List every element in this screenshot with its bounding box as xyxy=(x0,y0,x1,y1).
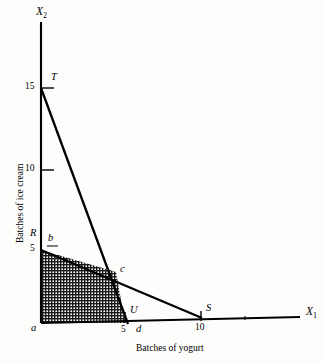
vertex-label-U: U xyxy=(130,305,138,316)
feasible-region-fill xyxy=(41,250,125,323)
vertex-label-d: d xyxy=(136,324,141,335)
x-axis-name-label: X1 xyxy=(306,306,317,320)
y-tick-label-10: 10 xyxy=(25,164,35,174)
x-tick-label-5: 5 xyxy=(121,325,126,335)
vertex-label-b: b xyxy=(48,233,53,244)
y-tick-label-5: 5 xyxy=(30,244,35,254)
vertex-label-c: c xyxy=(120,264,125,275)
vertex-label-T: T xyxy=(51,72,57,83)
y-axis-title: Batches of ice cream xyxy=(16,164,26,243)
vertex-label-a: a xyxy=(31,323,36,334)
x-axis-title: Batches of yogurt xyxy=(136,344,204,354)
x-tick-label-10: 10 xyxy=(195,323,205,333)
y-axis-name-label: X2 xyxy=(36,6,47,20)
plot-canvas xyxy=(0,0,325,363)
linear-programming-graph: X2 T 15 10 R b 5 c a U 5 d S 10 X1 Batch… xyxy=(0,0,325,363)
y-tick-label-15: 15 xyxy=(25,82,35,92)
vertex-label-S: S xyxy=(206,303,211,314)
vertex-label-R: R xyxy=(30,228,36,239)
